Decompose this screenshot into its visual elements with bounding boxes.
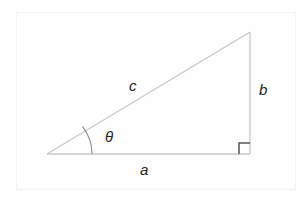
label-b: b (259, 82, 267, 97)
right-triangle-diagram (0, 0, 303, 199)
label-a: a (140, 162, 148, 177)
label-theta: θ (105, 129, 113, 144)
right-angle-marker (239, 143, 250, 154)
side-c-hypotenuse (47, 32, 250, 154)
label-c: c (129, 78, 137, 93)
